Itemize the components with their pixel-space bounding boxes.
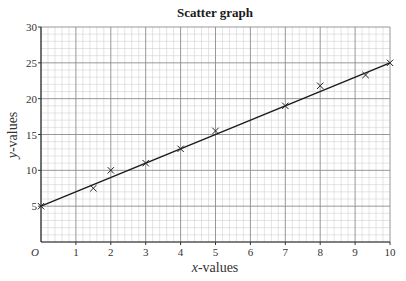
origin-label: O: [31, 246, 39, 258]
y-tick-label: 5: [32, 200, 38, 212]
x-tick-label: 6: [248, 246, 254, 258]
data-point-marker: [90, 185, 96, 191]
x-tick-label: 4: [178, 246, 184, 258]
x-tick-label: 2: [108, 246, 114, 258]
x-tick-label: 1: [73, 246, 79, 258]
x-tick-label: 5: [213, 246, 219, 258]
x-tick-label: 9: [352, 246, 358, 258]
x-tick-label: 10: [385, 246, 397, 258]
y-axis-label: y-values: [5, 112, 20, 161]
x-tick-label: 3: [143, 246, 149, 258]
y-tick-label: 10: [26, 164, 38, 176]
x-axis-ticks: 12345678910: [73, 242, 396, 258]
y-tick-label: 20: [26, 93, 38, 105]
y-axis-ticks: 51015202530: [26, 21, 41, 212]
x-axis-label: x-values: [191, 260, 239, 275]
y-tick-label: 30: [26, 21, 38, 33]
x-tick-label: 8: [317, 246, 323, 258]
x-tick-label: 7: [283, 246, 289, 258]
y-tick-label: 15: [26, 129, 38, 141]
y-tick-label: 25: [26, 57, 38, 69]
scatter-chart: Scatter graph 12345678910 51015202530 O …: [0, 0, 406, 281]
chart-title: Scatter graph: [177, 5, 254, 20]
